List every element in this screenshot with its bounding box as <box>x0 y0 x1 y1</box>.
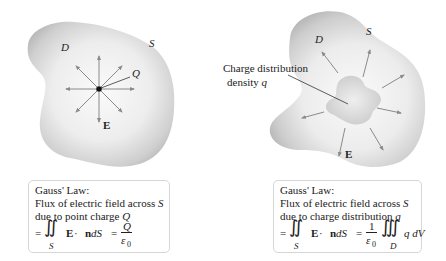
left-caption-line1-text: Flux of electric field across <box>35 197 158 209</box>
left-surface-label: S <box>149 38 155 49</box>
left-caption-line1: Flux of electric field across S <box>35 197 169 210</box>
eq-epsilon: ε <box>366 234 370 247</box>
double-integral-symbol: ∬ <box>289 221 298 234</box>
triple-integral-subscript: D <box>390 240 397 253</box>
right-field-label: E <box>345 149 352 160</box>
callout-line2: density q <box>227 77 267 88</box>
integral-subscript: S <box>49 240 54 253</box>
integral-subscript: S <box>294 240 299 253</box>
eq-vector-E: E <box>311 227 318 240</box>
right-caption-line1-var: S <box>403 197 409 209</box>
eq-epsilon-sub: 0 <box>372 238 376 251</box>
right-caption-box: Gauss' Law: Flux of electric field acros… <box>273 180 422 253</box>
right-caption-line1-text: Flux of electric field across <box>280 197 403 209</box>
callout-density-var: q <box>262 76 268 88</box>
left-caption-line1-var: S <box>158 197 164 209</box>
eq-epsilon-sub: 0 <box>127 238 131 251</box>
left-caption-line2: due to point charge Q <box>35 210 169 223</box>
left-region-label: D <box>61 42 69 53</box>
right-caption-equation: = ∬ S E · n dS = 1 ε 0 ∭ D q dV <box>280 224 421 250</box>
right-caption-line2-var: q <box>395 210 401 222</box>
right-caption-line2: due to charge distribution q <box>280 210 421 223</box>
left-field-label: E <box>103 120 110 131</box>
point-charge-dot <box>96 86 102 92</box>
eq-equals-2: = <box>356 227 362 240</box>
fraction-bar <box>366 232 377 233</box>
right-caption-title: Gauss' Law: <box>280 184 421 197</box>
charge-label: Q <box>132 68 140 79</box>
double-integral-symbol: ∬ <box>44 221 53 234</box>
callout-density-text: density <box>227 76 262 88</box>
left-caption-equation: = ∬ S E · n dS = Q ε 0 <box>35 224 169 250</box>
eq-dot: · <box>74 227 78 240</box>
right-region-label: D <box>315 34 323 45</box>
eq-dS: dS <box>336 227 347 240</box>
eq-dot: · <box>319 227 323 240</box>
triple-integral-symbol: ∭ <box>381 221 395 234</box>
left-caption-title: Gauss' Law: <box>35 184 169 197</box>
eq-equals-2: = <box>111 227 117 240</box>
eq-vector-E: E <box>66 227 73 240</box>
right-surface-label: S <box>366 26 372 37</box>
eq-q-dV: q dV <box>404 227 424 240</box>
right-caption-line1: Flux of electric field across S <box>280 197 421 210</box>
eq-equals: = <box>280 227 286 240</box>
fraction-bar <box>121 232 132 233</box>
callout-line1: Charge distribution <box>223 63 308 74</box>
eq-dS: dS <box>91 227 102 240</box>
eq-equals: = <box>35 227 41 240</box>
left-caption-box: Gauss' Law: Flux of electric field acros… <box>28 180 170 253</box>
eq-epsilon: ε <box>121 234 125 247</box>
